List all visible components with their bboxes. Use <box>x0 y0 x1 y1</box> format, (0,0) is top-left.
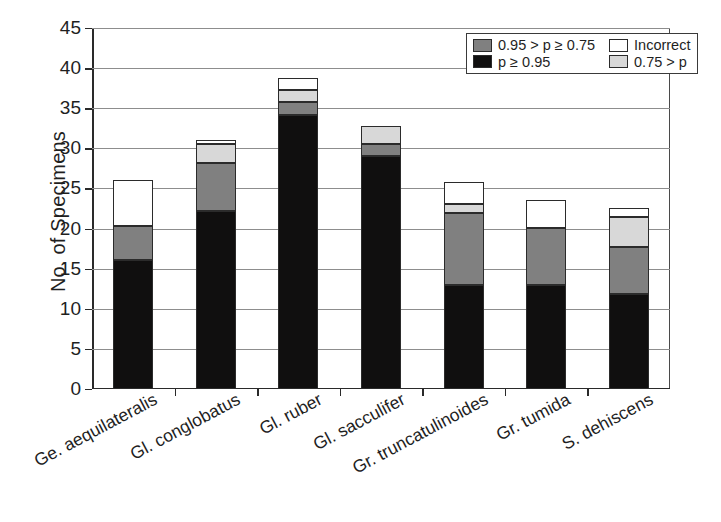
bar-segment[interactable] <box>361 126 401 144</box>
y-axis-tick-label: 20 <box>60 218 81 240</box>
bar-segment[interactable] <box>609 294 649 389</box>
y-axis-tick <box>85 349 92 350</box>
bar-stack[interactable] <box>444 182 484 389</box>
y-axis-tick <box>85 148 92 149</box>
y-axis-tick-label: 35 <box>60 97 81 119</box>
y-axis-tick <box>85 269 92 270</box>
legend-label: 0.95 > p ≥ 0.75 <box>498 38 595 53</box>
bar-segment[interactable] <box>113 260 153 389</box>
legend-item: Incorrect <box>609 38 690 53</box>
legend-item: p ≥ 0.95 <box>473 55 595 70</box>
y-axis-tick-label: 0 <box>70 378 81 400</box>
y-axis-tick <box>85 188 92 189</box>
bar-segment[interactable] <box>113 226 153 260</box>
bar-stack[interactable] <box>526 200 566 389</box>
bar-segment[interactable] <box>278 115 318 389</box>
y-axis-tick <box>85 389 92 390</box>
bar-segment[interactable] <box>444 285 484 389</box>
y-axis-tick <box>85 309 92 310</box>
y-axis-tick <box>85 28 92 29</box>
bar-stack[interactable] <box>609 208 649 389</box>
bar-segment[interactable] <box>444 213 484 285</box>
legend-item: 0.75 > p <box>609 55 690 70</box>
gridline <box>92 108 670 109</box>
bar-stack[interactable] <box>361 126 401 389</box>
y-axis-tick-label: 30 <box>60 137 81 159</box>
bar-segment[interactable] <box>361 144 401 156</box>
legend-label: 0.75 > p <box>634 55 687 70</box>
y-axis-tick-label: 5 <box>70 338 81 360</box>
y-axis-tick-label: 40 <box>60 57 81 79</box>
x-axis-label: S. dehiscens <box>558 389 656 455</box>
bar-segment[interactable] <box>278 78 318 90</box>
x-axis-label: Gr. truncatulinoides <box>348 389 491 478</box>
bar-segment[interactable] <box>196 140 236 144</box>
bar-segment[interactable] <box>278 90 318 102</box>
bar-segment[interactable] <box>113 180 153 226</box>
plot-area: 051015202530354045 <box>92 28 670 389</box>
bar-segment[interactable] <box>609 247 649 294</box>
gridline <box>92 28 670 29</box>
bar-segment[interactable] <box>278 102 318 115</box>
bar-segment[interactable] <box>196 163 236 211</box>
y-axis-tick-label: 25 <box>60 177 81 199</box>
bar-stack[interactable] <box>196 140 236 389</box>
x-axis-labels-group: Ge. aequilateralisGl. conglobatusGl. rub… <box>92 389 670 522</box>
legend-label: p ≥ 0.95 <box>498 55 550 70</box>
bar-segment[interactable] <box>444 182 484 204</box>
bar-stack[interactable] <box>113 180 153 389</box>
bar-chart-figure: No. of Specimens 051015202530354045 Ge. … <box>0 0 721 522</box>
bar-segment[interactable] <box>609 217 649 247</box>
plot-right-border <box>669 28 670 389</box>
bar-segment[interactable] <box>526 285 566 389</box>
bar-stack[interactable] <box>278 78 318 389</box>
legend-swatch <box>473 55 492 68</box>
bar-segment[interactable] <box>526 200 566 227</box>
y-axis-tick <box>85 229 92 230</box>
bar-segment[interactable] <box>609 208 649 218</box>
y-axis-tick-label: 45 <box>60 17 81 39</box>
y-axis-tick-label: 15 <box>60 258 81 280</box>
y-axis-tick <box>85 68 92 69</box>
bar-segment[interactable] <box>196 144 236 162</box>
legend-swatch <box>473 39 492 52</box>
legend-swatch <box>609 55 628 68</box>
legend-swatch <box>609 39 628 52</box>
bar-segment[interactable] <box>444 204 484 212</box>
legend-item: 0.95 > p ≥ 0.75 <box>473 38 595 53</box>
legend-label: Incorrect <box>634 38 690 53</box>
y-axis-line <box>92 28 94 389</box>
y-axis-tick-label: 10 <box>60 298 81 320</box>
chart-legend: 0.95 > p ≥ 0.75Incorrectp ≥ 0.950.75 > p <box>466 33 698 74</box>
bar-segment[interactable] <box>526 228 566 285</box>
bar-segment[interactable] <box>361 156 401 389</box>
y-axis-tick <box>85 108 92 109</box>
bar-segment[interactable] <box>196 211 236 389</box>
